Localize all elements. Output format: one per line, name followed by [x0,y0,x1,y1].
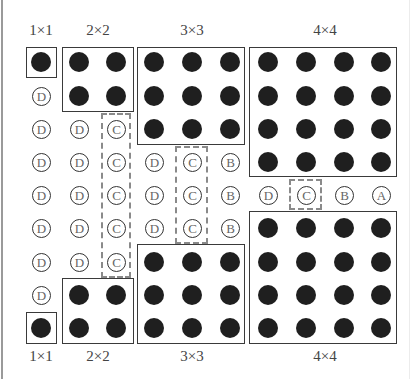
dot-icon [296,52,316,72]
dot-icon [258,318,278,338]
dot-icon [220,52,240,72]
letter-circle-d: D [70,186,89,205]
letter-circle-d: D [32,153,51,172]
dot-icon [106,86,126,106]
letter-circle-c: C [297,186,316,205]
letter-circle-d: D [70,120,89,139]
bottom-label: 2×2 [86,348,109,365]
pixel-binning-diagram: DDDCDDCDCBDDCDCBDCBADDCDCBDDCD 1×12×23×3… [0,0,419,379]
dot-icon [371,218,391,238]
dot-icon [69,86,89,106]
letter-circle-c: C [183,153,202,172]
dot-icon [334,119,354,139]
dot-icon [371,285,391,305]
letter-circle-a: A [372,186,391,205]
dot-icon [220,119,240,139]
dot-icon [371,318,391,338]
letter-circle-d: D [32,286,51,305]
dot-icon [258,152,278,172]
dot-icon [371,52,391,72]
letter-circle-d: D [259,186,278,205]
dot-icon [220,252,240,272]
right-border-line [409,0,410,379]
dot-icon [69,52,89,72]
dot-icon [371,152,391,172]
letter-circle-d: D [32,186,51,205]
dot-icon [334,52,354,72]
letter-circle-d: D [70,153,89,172]
letter-circle-d: D [145,186,164,205]
letter-circle-b: B [221,153,240,172]
dot-icon [258,119,278,139]
dot-icon [144,285,164,305]
top-label: 2×2 [86,22,109,39]
dot-icon [258,86,278,106]
letter-circle-c: C [107,219,126,238]
dot-icon [220,285,240,305]
bottom-label: 1×1 [29,348,52,365]
dot-icon [106,285,126,305]
dot-icon [258,252,278,272]
letter-circle-d: D [32,219,51,238]
letter-circle-d: D [70,253,89,272]
letter-circle-c: C [107,153,126,172]
dot-icon [258,285,278,305]
dot-icon [334,152,354,172]
dot-icon [334,86,354,106]
dot-icon [334,318,354,338]
letter-circle-c: C [107,120,126,139]
dot-icon [144,252,164,272]
dot-icon [106,318,126,338]
bottom-label: 4×4 [313,348,336,365]
dot-icon [334,285,354,305]
dot-icon [220,318,240,338]
letter-circle-d: D [145,153,164,172]
dot-icon [296,152,316,172]
letter-circle-d: D [145,219,164,238]
letter-circle-c: C [183,219,202,238]
letter-circle-b: B [221,186,240,205]
dot-icon [106,52,126,72]
dot-icon [182,52,202,72]
dot-icon [258,52,278,72]
dot-icon [182,285,202,305]
dot-icon [296,119,316,139]
dot-icon [144,52,164,72]
dot-icon [182,318,202,338]
dot-icon [182,86,202,106]
letter-circle-b: B [335,186,354,205]
dot-icon [334,218,354,238]
letter-circle-d: D [32,87,51,106]
letter-circle-d: D [70,219,89,238]
top-label: 4×4 [313,22,336,39]
dot-icon [296,285,316,305]
top-label: 1×1 [29,22,52,39]
dot-icon [296,318,316,338]
letter-circle-d: D [32,120,51,139]
letter-circle-d: D [32,253,51,272]
dot-icon [69,285,89,305]
top-label: 3×3 [180,22,203,39]
dot-icon [31,318,51,338]
dot-icon [220,86,240,106]
dot-icon [334,252,354,272]
dot-icon [144,86,164,106]
dot-icon [296,218,316,238]
dot-icon [69,318,89,338]
dot-icon [371,86,391,106]
dot-icon [182,119,202,139]
bottom-label: 3×3 [180,348,203,365]
dot-icon [182,252,202,272]
letter-circle-c: C [107,253,126,272]
dot-icon [144,318,164,338]
left-border-line [1,0,3,379]
dot-icon [371,119,391,139]
letter-circle-c: C [107,186,126,205]
dot-icon [144,119,164,139]
dot-icon [296,252,316,272]
letter-circle-b: B [221,219,240,238]
dot-icon [296,86,316,106]
letter-circle-c: C [183,186,202,205]
dot-icon [258,218,278,238]
dot-icon [371,252,391,272]
